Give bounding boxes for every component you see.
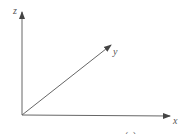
axes-diagram: z y x (a) <box>0 0 183 134</box>
x-axis-label: x <box>172 115 178 126</box>
x-axis <box>22 115 170 116</box>
y-axis <box>22 45 111 115</box>
z-axis-label: z <box>12 5 17 16</box>
y-axis-label: y <box>112 46 118 57</box>
caption: (a) <box>125 130 136 134</box>
